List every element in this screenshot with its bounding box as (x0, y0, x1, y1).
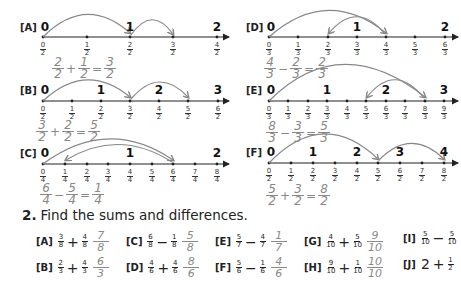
section-2-heading: 2.Find the sums and differences. (22, 207, 248, 223)
handwritten-work: 83 − 33 = 53 (266, 121, 330, 144)
whole-label: 1 (309, 145, 317, 159)
problem-label: [F] (246, 147, 262, 158)
axis-b (42, 80, 229, 102)
tick-fraction: 62 (397, 168, 403, 183)
handwritten-work: 22 + 12 = 32 (52, 57, 116, 80)
problem-label: [C] (20, 148, 36, 159)
tick-fraction: 52 (375, 168, 381, 183)
whole-label: 2 (382, 83, 390, 97)
tick-fraction: 32 (170, 42, 176, 57)
tick-fraction: 24 (84, 169, 90, 184)
tick-fraction: 13 (285, 106, 291, 121)
exercise-j: [J] 2 + 12 (403, 256, 454, 272)
section-instruction: Find the sums and differences. (41, 207, 248, 223)
whole-label: 0 (41, 146, 49, 160)
problem-label: [A] (20, 22, 37, 33)
tick-fraction: 63 (442, 42, 448, 57)
tick-fraction: 83 (422, 106, 428, 121)
tick-fraction: 43 (383, 42, 389, 57)
whole-label: 4 (440, 145, 448, 159)
whole-label: 2 (441, 20, 449, 34)
tick-fraction: 33 (354, 42, 360, 57)
whole-label: 1 (97, 83, 105, 97)
axis-a (42, 14, 229, 38)
exercise-d: [D] 46 + 46 86 (126, 256, 199, 279)
exercise-c: [C] 68 − 18 58 (126, 230, 198, 253)
handwritten-answer: 63 (93, 256, 109, 279)
tick-fraction: 63 (383, 106, 389, 121)
handwritten-answer: 58 (182, 230, 198, 253)
tick-fraction: 22 (310, 168, 316, 183)
tick-fraction: 32 (332, 168, 338, 183)
whole-label: 3 (214, 83, 222, 97)
handwritten-answer: 17 (271, 230, 287, 253)
tick-fraction: 32 (127, 106, 133, 121)
tick-fraction: 53 (412, 42, 418, 57)
handwritten-answer: 1010 (367, 256, 383, 279)
tick-fraction: 23 (305, 106, 311, 121)
exercise-e: [E] 57 − 47 17 (215, 230, 287, 253)
handwritten-answer: 78 (93, 230, 109, 253)
problem-label: [D] (246, 22, 263, 33)
whole-label: 1 (353, 20, 361, 34)
whole-label: 0 (41, 20, 49, 34)
tick-fraction: 54 (149, 169, 155, 184)
tick-fraction: 64 (170, 169, 176, 184)
problem-label: [B] (20, 85, 37, 96)
exercise-f: [F] 56 − 16 46 (215, 256, 287, 279)
tick-fraction: 02 (40, 42, 46, 57)
whole-label: 2 (213, 20, 221, 34)
whole-label: 1 (323, 83, 331, 97)
tick-fraction: 52 (185, 106, 191, 121)
tick-fraction: 12 (288, 168, 294, 183)
handwritten-answer: 46 (271, 256, 287, 279)
tick-fraction: 93 (441, 106, 447, 121)
tick-fraction: 22 (98, 106, 104, 121)
tick-fraction: 44 (127, 169, 133, 184)
tick-fraction: 42 (156, 106, 162, 121)
handwritten-work: 43 − 23 = 23 (264, 57, 328, 80)
tick-fraction: 42 (214, 42, 220, 57)
exercise-g: [G] 410 + 510 910 (304, 230, 383, 253)
handwritten-work: 64 − 54 = 14 (40, 183, 104, 206)
whole-label: 2 (353, 145, 361, 159)
axis-d (268, 10, 458, 38)
exercise-b: [B] 23 + 43 63 (36, 256, 109, 279)
tick-fraction: 72 (419, 168, 425, 183)
section-number: 2. (22, 207, 37, 223)
handwritten-answer: 910 (367, 230, 383, 253)
tick-fraction: 22 (127, 42, 133, 57)
tick-fraction: 84 (214, 169, 220, 184)
tick-fraction: 82 (441, 168, 447, 183)
exercise-h: [H] 910 + 110 1010 (304, 256, 383, 279)
tick-fraction: 02 (266, 168, 272, 183)
handwritten-answer: 86 (183, 256, 199, 279)
tick-fraction: 42 (354, 168, 360, 183)
tick-fraction: 14 (62, 169, 68, 184)
problem-label: [E] (246, 85, 262, 96)
whole-label: 3 (396, 145, 404, 159)
tick-fraction: 53 (363, 106, 369, 121)
tick-fraction: 43 (344, 106, 350, 121)
whole-label: 0 (267, 145, 275, 159)
tick-fraction: 73 (402, 106, 408, 121)
exercise-a: [A] 38 + 48 78 (36, 230, 109, 253)
handwritten-work: 52 + 32 = 82 (266, 184, 330, 207)
exercise-i: [I] 510 − 510 (403, 230, 456, 246)
tick-fraction: 34 (105, 169, 111, 184)
whole-label: 0 (267, 83, 275, 97)
whole-label: 0 (267, 20, 275, 34)
tick-fraction: 62 (215, 106, 221, 121)
tick-fraction: 74 (192, 169, 198, 184)
whole-label: 2 (155, 83, 163, 97)
whole-label: 0 (41, 83, 49, 97)
whole-label: 3 (440, 83, 448, 97)
whole-label: 1 (126, 20, 134, 34)
whole-label: 1 (126, 146, 134, 160)
whole-label: 2 (213, 146, 221, 160)
handwritten-work: 32 + 22 = 52 (36, 120, 100, 143)
